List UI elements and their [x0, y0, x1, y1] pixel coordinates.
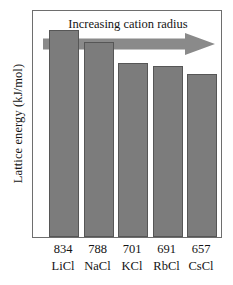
tick-compound: RbCl — [148, 258, 186, 275]
x-tick-kcl: 701KCl — [113, 241, 151, 275]
bar-rbcl — [153, 66, 183, 237]
tick-value: 834 — [44, 241, 82, 258]
tick-compound: CsCl — [182, 258, 220, 275]
tick-value: 788 — [79, 241, 117, 258]
plot-area: Increasing cation radius — [32, 10, 222, 238]
tick-value: 691 — [148, 241, 186, 258]
bar-licl — [49, 30, 79, 237]
x-tick-licl: 834LiCl — [44, 241, 82, 275]
x-tick-cscl: 657CsCl — [182, 241, 220, 275]
tick-value: 657 — [182, 241, 220, 258]
tick-compound: NaCl — [79, 258, 117, 275]
bar-kcl — [118, 63, 148, 237]
bars-group — [33, 11, 221, 237]
y-axis-label: Lattice energy (kJ/mol) — [11, 34, 26, 214]
x-axis-tick-labels: 834LiCl788NaCl701KCl691RbCl657CsCl — [32, 241, 222, 283]
lattice-energy-bar-chart: Lattice energy (kJ/mol) Increasing catio… — [0, 0, 233, 285]
x-tick-nacl: 788NaCl — [79, 241, 117, 275]
x-tick-rbcl: 691RbCl — [148, 241, 186, 275]
tick-value: 701 — [113, 241, 151, 258]
bar-cscl — [187, 74, 217, 237]
bar-nacl — [84, 42, 114, 237]
tick-compound: KCl — [113, 258, 151, 275]
tick-compound: LiCl — [44, 258, 82, 275]
